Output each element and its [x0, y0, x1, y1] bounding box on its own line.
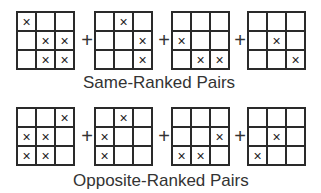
empty-cell	[248, 12, 267, 31]
empty-cell	[286, 12, 305, 31]
x-mark-icon: ×	[100, 149, 108, 163]
x-mark-icon: ×	[41, 149, 49, 163]
empty-cell	[36, 12, 55, 31]
marked-cell: ×	[95, 127, 114, 146]
marked-cell: ×	[36, 31, 55, 50]
x-mark-icon: ×	[60, 34, 68, 48]
empty-cell	[55, 12, 74, 31]
x-mark-icon: ×	[215, 53, 223, 67]
marked-cell: ×	[95, 146, 114, 165]
empty-cell	[114, 127, 133, 146]
empty-cell	[55, 146, 74, 165]
x-mark-icon: ×	[196, 53, 204, 67]
empty-cell	[267, 50, 286, 69]
empty-cell	[172, 50, 191, 69]
plus-icon: +	[233, 30, 247, 50]
same-ranked-grid-1: ×××××	[16, 11, 75, 70]
marked-cell: ×	[36, 127, 55, 146]
empty-cell	[95, 50, 114, 69]
empty-cell	[191, 127, 210, 146]
plus-icon: +	[157, 30, 171, 50]
empty-cell	[191, 108, 210, 127]
empty-cell	[172, 12, 191, 31]
empty-cell	[248, 31, 267, 50]
same-ranked-grid-3: ×××	[171, 11, 230, 70]
marked-cell: ×	[36, 146, 55, 165]
x-mark-icon: ×	[215, 130, 223, 144]
empty-cell	[210, 146, 229, 165]
plus-icon: +	[157, 126, 171, 146]
caption-opposite-ranked-pairs: Opposite-Ranked Pairs	[73, 172, 249, 190]
x-mark-icon: ×	[41, 53, 49, 67]
marked-cell: ×	[55, 50, 74, 69]
empty-cell	[95, 31, 114, 50]
marked-cell: ×	[267, 31, 286, 50]
x-mark-icon: ×	[272, 130, 280, 144]
empty-cell	[133, 146, 152, 165]
empty-cell	[191, 12, 210, 31]
empty-cell	[286, 31, 305, 50]
same-ranked-grid-2: ×××	[94, 11, 153, 70]
x-mark-icon: ×	[272, 34, 280, 48]
empty-cell	[133, 127, 152, 146]
x-mark-icon: ×	[22, 130, 30, 144]
empty-cell	[248, 50, 267, 69]
empty-cell	[248, 108, 267, 127]
empty-cell	[114, 146, 133, 165]
marked-cell: ×	[172, 146, 191, 165]
empty-cell	[17, 108, 36, 127]
empty-cell	[114, 31, 133, 50]
empty-cell	[36, 108, 55, 127]
x-mark-icon: ×	[60, 53, 68, 67]
x-mark-icon: ×	[41, 34, 49, 48]
caption-same-ranked-pairs: Same-Ranked Pairs	[83, 74, 235, 92]
empty-cell	[172, 108, 191, 127]
marked-cell: ×	[17, 12, 36, 31]
opposite-ranked-grid-4: ××	[247, 107, 306, 166]
marked-cell: ×	[133, 50, 152, 69]
marked-cell: ×	[248, 146, 267, 165]
x-mark-icon: ×	[138, 53, 146, 67]
x-mark-icon: ×	[138, 34, 146, 48]
empty-cell	[95, 108, 114, 127]
marked-cell: ×	[172, 31, 191, 50]
empty-cell	[17, 50, 36, 69]
marked-cell: ×	[267, 127, 286, 146]
same-ranked-grid-4: ××	[247, 11, 306, 70]
plus-icon: +	[80, 30, 94, 50]
empty-cell	[210, 108, 229, 127]
empty-cell	[248, 127, 267, 146]
x-mark-icon: ×	[22, 15, 30, 29]
empty-cell	[210, 31, 229, 50]
empty-cell	[172, 127, 191, 146]
x-mark-icon: ×	[177, 149, 185, 163]
x-mark-icon: ×	[60, 111, 68, 125]
x-mark-icon: ×	[41, 130, 49, 144]
x-mark-icon: ×	[177, 34, 185, 48]
x-mark-icon: ×	[100, 130, 108, 144]
empty-cell	[286, 127, 305, 146]
marked-cell: ×	[286, 50, 305, 69]
empty-cell	[55, 127, 74, 146]
marked-cell: ×	[114, 12, 133, 31]
x-mark-icon: ×	[291, 53, 299, 67]
empty-cell	[210, 12, 229, 31]
marked-cell: ×	[114, 108, 133, 127]
marked-cell: ×	[55, 108, 74, 127]
x-mark-icon: ×	[253, 149, 261, 163]
x-mark-icon: ×	[22, 149, 30, 163]
marked-cell: ×	[191, 50, 210, 69]
empty-cell	[191, 31, 210, 50]
empty-cell	[267, 146, 286, 165]
marked-cell: ×	[210, 127, 229, 146]
empty-cell	[133, 108, 152, 127]
marked-cell: ×	[191, 146, 210, 165]
empty-cell	[267, 108, 286, 127]
marked-cell: ×	[133, 31, 152, 50]
empty-cell	[95, 12, 114, 31]
empty-cell	[114, 50, 133, 69]
x-mark-icon: ×	[119, 111, 127, 125]
marked-cell: ×	[36, 50, 55, 69]
marked-cell: ×	[55, 31, 74, 50]
plus-icon: +	[233, 126, 247, 146]
